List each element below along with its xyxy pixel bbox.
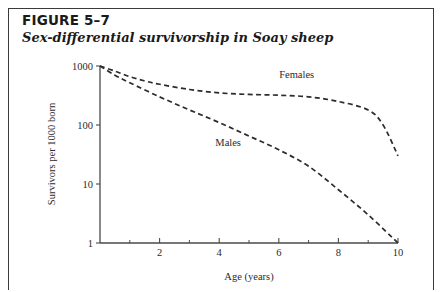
x-axis-tick-labels: 246810 — [157, 247, 403, 258]
chart-series-lines — [100, 66, 398, 243]
x-tick-label-8: 8 — [336, 247, 341, 258]
chart-axes — [100, 66, 398, 243]
y-axis-tick-labels: 1000100101 — [72, 61, 93, 249]
chart-plot-area: 1000100101 246810 FemalesMales Age (year… — [8, 8, 434, 290]
y-tick-label-100: 100 — [77, 120, 93, 131]
x-axis-ticks — [130, 238, 398, 243]
series-label-females: Females — [279, 69, 314, 80]
series-line-males — [100, 66, 398, 243]
y-tick-label-1000: 1000 — [72, 61, 93, 72]
y-tick-label-1: 1 — [88, 238, 93, 249]
x-tick-label-2: 2 — [157, 247, 162, 258]
series-line-females — [100, 66, 398, 156]
x-axis-title: Age (years) — [224, 271, 274, 283]
chart-series-annotations: FemalesMales — [215, 69, 314, 148]
y-axis-title: Survivors per 1000 born — [46, 102, 57, 205]
series-label-males: Males — [215, 137, 241, 148]
y-tick-label-10: 10 — [83, 179, 94, 190]
x-tick-label-4: 4 — [217, 247, 223, 258]
figure-container: FIGURE 5–7 Sex-differential survivorship… — [0, 0, 446, 292]
x-tick-label-10: 10 — [393, 247, 404, 258]
x-tick-label-6: 6 — [276, 247, 281, 258]
survivorship-line-chart: 1000100101 246810 FemalesMales Age (year… — [8, 8, 434, 290]
